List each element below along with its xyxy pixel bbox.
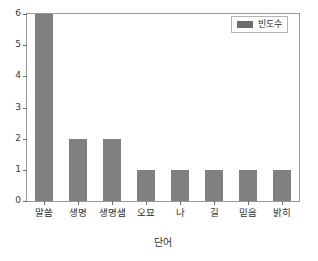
bar-chart-figure: 0123456말씀생명생명샘오묘나길믿음밝히 단어 빈도수 [0, 0, 318, 261]
y-axis-tick-label: 5 [15, 39, 21, 50]
x-axis-tick-label: 밝히 [273, 207, 291, 219]
y-axis-tick-label: 4 [15, 70, 21, 81]
x-axis-title: 단어 [26, 236, 300, 249]
y-axis-tick-label: 1 [15, 164, 21, 175]
y-axis-tick-mark [23, 45, 27, 46]
x-axis-tick-mark [44, 201, 45, 205]
y-axis-tick-mark [23, 76, 27, 77]
y-axis-tick-mark [23, 139, 27, 140]
x-axis-tick-mark [248, 201, 249, 205]
y-axis-tick-mark [23, 14, 27, 15]
bar [171, 170, 189, 201]
x-axis-tick-label: 길 [210, 207, 219, 219]
x-axis-tick-mark [214, 201, 215, 205]
x-axis-tick-mark [146, 201, 147, 205]
x-axis-tick-mark [112, 201, 113, 205]
bar [205, 170, 223, 201]
bar [35, 14, 53, 201]
y-axis-tick-label: 0 [15, 195, 21, 206]
y-axis-tick-label: 6 [15, 8, 21, 19]
plot-frame: 0123456말씀생명생명샘오묘나길믿음밝히 [26, 13, 300, 202]
x-axis-tick-label: 말씀 [35, 207, 53, 219]
y-axis-tick-label: 2 [15, 133, 21, 144]
y-axis-tick-mark [23, 201, 27, 202]
bar [103, 139, 121, 201]
x-axis-tick-label: 생명샘 [99, 207, 126, 219]
y-axis-tick-mark [23, 170, 27, 171]
x-axis-tick-mark [78, 201, 79, 205]
bar [69, 139, 87, 201]
x-axis-tick-label: 오묘 [137, 207, 155, 219]
bar [273, 170, 291, 201]
legend-label-frequency: 빈도수 [258, 19, 282, 30]
x-axis-tick-label: 믿음 [239, 207, 257, 219]
x-axis-tick-label: 나 [176, 207, 185, 219]
y-axis-tick-label: 3 [15, 102, 21, 113]
chart-legend: 빈도수 [231, 16, 288, 33]
bar [137, 170, 155, 201]
x-axis-tick-mark [180, 201, 181, 205]
legend-swatch-frequency [237, 21, 253, 28]
y-axis-tick-mark [23, 108, 27, 109]
plot-area: 0123456말씀생명생명샘오묘나길믿음밝히 [27, 14, 299, 201]
bar [239, 170, 257, 201]
x-axis-tick-mark [282, 201, 283, 205]
x-axis-tick-label: 생명 [69, 207, 87, 219]
